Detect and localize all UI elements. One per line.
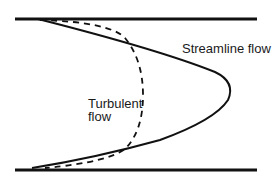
turbulent-label-line2: flow [88,110,142,123]
turbulent-flow-label: Turbulent flow [88,97,142,123]
streamline-flow-label: Streamline flow [182,42,271,55]
flow-profile-diagram [0,0,279,178]
turbulent-profile-curve [40,20,143,168]
